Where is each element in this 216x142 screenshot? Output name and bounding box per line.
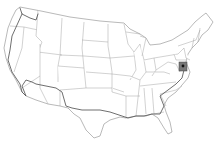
us-map — [0, 0, 216, 142]
location-pin-icon — [182, 65, 185, 68]
location-marker[interactable] — [179, 62, 187, 71]
state-borders — [10, 10, 200, 118]
